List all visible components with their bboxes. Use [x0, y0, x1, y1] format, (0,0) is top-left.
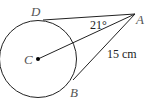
tangent-segment-AD [43, 14, 135, 20]
tangent-diagram: D A C B 21° 15 cm [0, 0, 145, 101]
center-point-dot [36, 57, 40, 61]
label-A: A [135, 12, 144, 27]
length-label: 15 cm [107, 47, 137, 61]
angle-label: 21° [90, 18, 107, 32]
label-B: B [70, 85, 78, 100]
label-D: D [30, 4, 41, 19]
label-C: C [24, 52, 33, 67]
